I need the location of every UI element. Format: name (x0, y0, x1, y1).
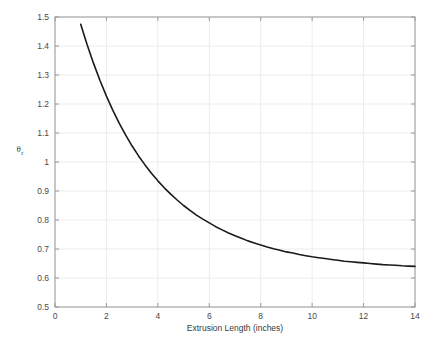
x-axis-title: Extrusion Length (inches) (187, 323, 284, 333)
y-axis-title: θr (17, 144, 25, 156)
y-tick-label: 0.7 (37, 244, 49, 254)
y-tick-labels: 0.50.60.70.80.911.11.21.31.41.5 (37, 12, 49, 312)
data-series-group (81, 24, 415, 266)
y-tick-label: 1.2 (37, 99, 49, 109)
x-tick-label: 0 (53, 311, 58, 321)
y-tick-label: 1.4 (37, 41, 49, 51)
x-tick-label: 10 (307, 311, 317, 321)
y-axis-title-subscript: r (21, 149, 24, 156)
y-tick-label: 1 (44, 157, 49, 167)
grid-lines (55, 17, 415, 307)
x-tick-label: 8 (258, 311, 263, 321)
x-tick-label: 14 (410, 311, 420, 321)
x-tick-label: 6 (207, 311, 212, 321)
y-tick-label: 0.8 (37, 215, 49, 225)
y-axis-title-symbol: θ (17, 144, 21, 154)
figure-canvas: 02468101214 0.50.60.70.80.911.11.21.31.4… (0, 0, 433, 340)
x-tick-labels: 02468101214 (53, 311, 420, 321)
y-tick-label: 1.1 (37, 128, 49, 138)
y-tick-label: 0.6 (37, 273, 49, 283)
y-tick-label: 0.5 (37, 302, 49, 312)
x-tick-label: 2 (104, 311, 109, 321)
x-tick-label: 4 (155, 311, 160, 321)
y-tick-label: 1.5 (37, 12, 49, 22)
y-tick-label: 1.3 (37, 70, 49, 80)
x-tick-label: 12 (359, 311, 369, 321)
chart-plot: 02468101214 0.50.60.70.80.911.11.21.31.4… (0, 0, 433, 340)
y-tick-label: 0.9 (37, 186, 49, 196)
data-curve (81, 24, 415, 266)
